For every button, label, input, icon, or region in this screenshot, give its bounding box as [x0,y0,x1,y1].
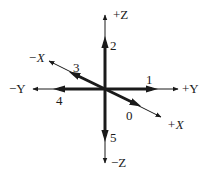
neg-z-axis-label: −Z [111,155,126,170]
axis-diagram-svg: +Z2−Z5+Y1−Y4−X3+X0 [0,0,209,174]
axis-diagram: +Z2−Z5+Y1−Y4−X3+X0 [0,0,209,174]
neg-x-index-label: 3 [73,60,80,75]
pos-y-axis-label: +Y [182,81,199,96]
neg-y-index-label: 4 [56,93,63,108]
pos-x-index-label: 0 [126,108,133,123]
pos-x-axis-label: +X [167,117,185,132]
pos-z-index-label: 2 [110,38,117,53]
axes-group [33,15,178,163]
neg-x-vector [74,74,105,89]
pos-z-axis-label: +Z [113,7,128,22]
neg-y-axis-label: −Y [9,81,26,96]
neg-x-axis-label: −X [28,50,46,65]
neg-z-index-label: 5 [110,130,117,145]
pos-y-index-label: 1 [146,72,153,87]
pos-x-vector [105,89,136,104]
